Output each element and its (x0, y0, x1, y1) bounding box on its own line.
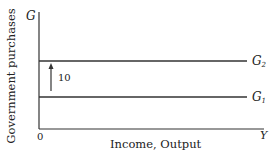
y-axis-symbol: G (26, 10, 36, 22)
g2-label-main: G (252, 54, 262, 68)
g2-label: G2 (252, 55, 266, 69)
g2-label-sub: 2 (262, 61, 266, 69)
x-axis-symbol: Y (260, 130, 267, 141)
shift-arrow-icon (49, 63, 54, 91)
g1-label-sub: 1 (262, 97, 266, 105)
g1-label: G1 (252, 91, 266, 105)
g1-label-main: G (252, 90, 262, 104)
shift-amount-label: 10 (58, 73, 71, 83)
x-axis-label: Income, Output (110, 139, 201, 151)
y-axis-label: Government purchases (6, 8, 18, 143)
origin-label: 0 (37, 132, 43, 142)
